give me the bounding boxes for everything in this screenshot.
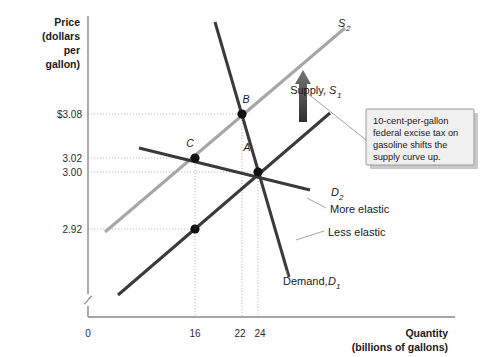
point-b-marker bbox=[237, 109, 246, 118]
arrow-up-icon bbox=[295, 70, 311, 122]
x-tick-label-24: 24 bbox=[254, 328, 266, 339]
point-a-marker bbox=[253, 167, 262, 176]
callout-tax-note: 10-cent-per-gallon federal excise tax on… bbox=[366, 109, 478, 169]
supply-demand-figure: A B C Price (dollars per gallon) $3.08 3… bbox=[0, 0, 482, 357]
callout-line-2: gasoline shifts the bbox=[373, 140, 447, 150]
annotation-more-elastic: More elastic bbox=[307, 198, 390, 215]
y-axis-title-line-0: Price bbox=[54, 16, 80, 28]
callout-line-0: 10-cent-per-gallon bbox=[373, 116, 448, 126]
curve-label-s2-subscript: 2 bbox=[345, 24, 351, 33]
leader-more-elastic bbox=[307, 198, 326, 208]
y-tick-label-302: 3.02 bbox=[63, 153, 83, 164]
y-axis-title-line-1: (dollars bbox=[42, 30, 80, 42]
y-axis-title-line-3: gallon) bbox=[46, 58, 80, 70]
curve-s1 bbox=[118, 113, 330, 295]
annotation-less-elastic-text: Less elastic bbox=[328, 226, 386, 238]
point-label-a: A bbox=[242, 141, 250, 153]
y-tick-label-308: $3.08 bbox=[57, 109, 82, 120]
y-axis-title: Price (dollars per gallon) bbox=[42, 16, 80, 70]
y-tick-label-300: 3.00 bbox=[63, 167, 83, 178]
point-s1-q16-marker bbox=[190, 224, 199, 233]
curve-label-s1-letter: S bbox=[329, 84, 337, 96]
curve-label-d2-letter: D bbox=[331, 186, 339, 198]
y-tick-labels: $3.08 3.02 3.00 2.92 bbox=[57, 109, 82, 235]
shift-arrow bbox=[295, 70, 311, 122]
curve-label-s1: Supply, S 1 bbox=[290, 84, 341, 100]
annotation-more-elastic-text: More elastic bbox=[330, 203, 390, 215]
curve-label-d1-subscript: 1 bbox=[336, 282, 340, 291]
curve-label-d2: D 2 bbox=[331, 186, 344, 202]
x-axis-title: Quantity (billions of gallons) bbox=[352, 327, 448, 353]
curve-label-s2-letter: S bbox=[338, 17, 346, 29]
y-axis-title-line-2: per bbox=[64, 44, 80, 56]
leader-callout bbox=[307, 93, 366, 140]
y-tick-label-292: 2.92 bbox=[63, 224, 83, 235]
gridlines-group bbox=[88, 114, 258, 317]
chart-svg: A B C Price (dollars per gallon) $3.08 3… bbox=[0, 0, 482, 357]
curve-d2 bbox=[139, 148, 310, 190]
curve-d1 bbox=[215, 22, 289, 277]
point-label-c: C bbox=[186, 137, 194, 149]
point-c-marker bbox=[190, 153, 199, 162]
curve-label-d1-text: Demand, bbox=[283, 275, 328, 287]
point-label-b: B bbox=[242, 93, 249, 105]
curve-label-d2-subscript: 2 bbox=[338, 193, 344, 202]
annotation-less-elastic: Less elastic bbox=[296, 226, 386, 240]
curve-label-s1-subscript: 1 bbox=[337, 91, 341, 100]
x-tick-labels: 0 16 22 24 bbox=[85, 328, 266, 339]
curve-label-d1-letter: D bbox=[328, 275, 336, 287]
x-tick-label-16: 16 bbox=[189, 328, 201, 339]
curve-label-d1: Demand, D 1 bbox=[283, 275, 340, 291]
x-axis-title-main: Quantity bbox=[405, 327, 448, 339]
leader-less-elastic bbox=[296, 231, 324, 240]
x-tick-label-0: 0 bbox=[85, 328, 91, 339]
x-axis-title-sub: (billions of gallons) bbox=[352, 341, 448, 353]
x-tick-label-22: 22 bbox=[234, 328, 246, 339]
curves-group bbox=[105, 22, 345, 295]
callout-line-3: supply curve up. bbox=[373, 152, 441, 162]
callout-line-1: federal excise tax on bbox=[373, 128, 458, 138]
axis-break-icon bbox=[84, 296, 92, 304]
